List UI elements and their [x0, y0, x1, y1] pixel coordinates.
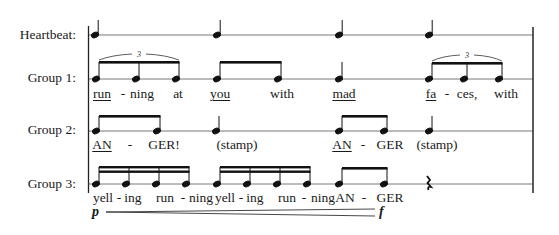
lyric: ning [311, 190, 335, 206]
lyric: AN [335, 190, 355, 206]
lyric: - [181, 190, 186, 206]
lyric: - [121, 86, 126, 102]
lyric: ning [130, 86, 154, 102]
row-label-group3: Group 3: [0, 176, 76, 192]
lyric: run [156, 190, 174, 206]
lyric: - [361, 137, 366, 153]
quarter-rest-icon [427, 176, 431, 190]
rhythm-score: 3 3 [0, 0, 559, 235]
dynamic-piano: p [92, 204, 99, 220]
dynamic-forte: f [379, 204, 384, 220]
lyric: - [445, 86, 450, 102]
group3-notes [92, 166, 389, 188]
lyric: ing [246, 190, 263, 206]
lyric: - [117, 190, 122, 206]
lyric: with [270, 86, 294, 102]
lyric: - [362, 190, 367, 206]
row-label-group2: Group 2: [0, 122, 76, 138]
row-label-heartbeat: Heartbeat: [0, 27, 76, 43]
lyric: yell [215, 190, 235, 206]
lyric: - [302, 190, 307, 206]
group2-notes [92, 115, 434, 135]
lyric: you [210, 86, 230, 102]
lyric: ning [189, 190, 213, 206]
lyric: - [239, 190, 244, 206]
lyric: AN [92, 137, 112, 153]
lyric: run [93, 86, 111, 102]
tuplet-3-b: 3 [464, 51, 469, 60]
lyric: fa [426, 86, 437, 102]
tuplet-3-a: 3 [136, 50, 141, 59]
heartbeat-notes [91, 20, 434, 39]
lyric: with [494, 86, 518, 102]
crescendo-hairpin [106, 209, 375, 216]
row-label-group1: Group 1: [0, 70, 76, 86]
lyric: - [128, 137, 133, 153]
group1-notes [92, 61, 504, 83]
lyric: run [278, 190, 296, 206]
lyric: GER [377, 137, 404, 153]
lyric: (stamp) [416, 137, 457, 153]
lyric: mad [332, 86, 355, 102]
lyric: ing [124, 190, 141, 206]
lyric: GER! [148, 137, 180, 153]
lyric: at [173, 86, 183, 102]
tuplet-brackets [99, 54, 502, 61]
lyric: ces, [457, 86, 478, 102]
lyric: (stamp) [216, 137, 257, 153]
lyric: AN [332, 137, 352, 153]
